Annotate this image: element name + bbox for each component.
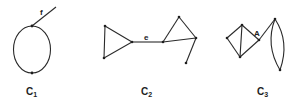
c2-edge	[104, 26, 105, 58]
c2-edge-label-e: e	[144, 33, 149, 42]
c3-vertex-a	[258, 39, 261, 42]
c3-vertex	[279, 69, 282, 72]
c3-edge	[259, 19, 275, 40]
c3-vertex	[241, 24, 244, 27]
graph-c1: f C1	[14, 7, 57, 98]
c2-edge	[105, 26, 132, 42]
c3-vertex	[274, 18, 277, 21]
c1-edge-label-f: f	[40, 8, 43, 17]
graph-figure: f C1 e C2 A C3	[0, 0, 294, 103]
graph-c2: e C2	[103, 16, 198, 98]
c3-edge	[227, 25, 242, 38]
c2-edge	[163, 38, 196, 42]
c1-vertex-bottom	[31, 72, 34, 75]
c2-vertex	[104, 25, 107, 28]
c2-vertex	[185, 62, 188, 65]
c2-vertex	[195, 37, 198, 40]
c2-vertex	[131, 41, 134, 44]
c2-vertex	[162, 41, 165, 44]
graph-c3: A C3	[226, 18, 284, 98]
c1-oval-cycle	[14, 26, 51, 73]
c2-edge	[186, 38, 196, 63]
c3-vertex-label-a: A	[254, 29, 260, 38]
c3-edge	[227, 38, 240, 57]
c2-edge	[104, 42, 132, 58]
c3-caption: C3	[257, 86, 268, 98]
c1-caption: C1	[26, 86, 37, 98]
c3-edge	[240, 25, 242, 57]
c1-edge-f	[32, 7, 56, 26]
c2-edge	[163, 17, 179, 42]
c2-vertex	[103, 57, 106, 60]
c3-vertex	[239, 56, 242, 59]
c3-vertex	[226, 37, 229, 40]
c2-caption: C2	[141, 86, 152, 98]
c2-vertex	[178, 16, 181, 19]
c3-edge	[240, 40, 259, 57]
c1-vertex-top	[31, 25, 34, 28]
c2-edge	[179, 17, 196, 38]
